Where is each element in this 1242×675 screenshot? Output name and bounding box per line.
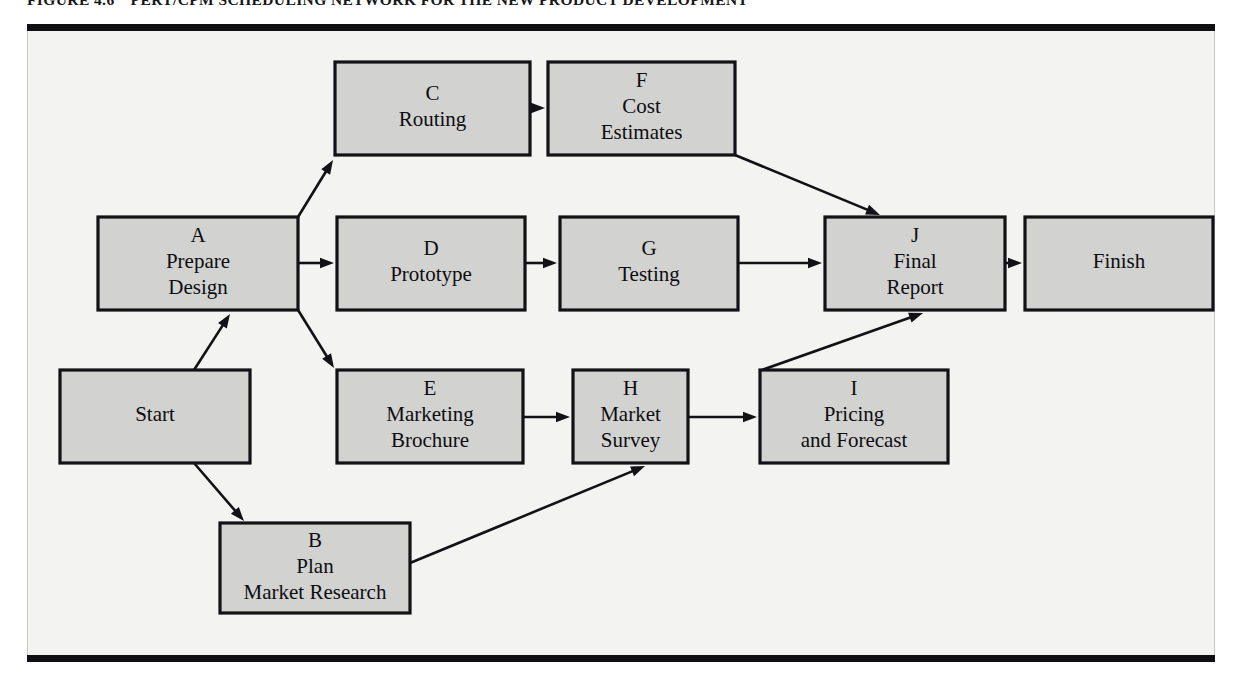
node-label-e-line-1: Marketing <box>386 402 474 426</box>
node-label-j-line-1: Final <box>893 249 936 273</box>
edge-j-to-finish <box>1005 258 1022 268</box>
node-label-e-line-2: Brochure <box>391 428 469 452</box>
node-label-start-line-0: Start <box>135 402 175 426</box>
edge-start-to-a <box>194 314 230 370</box>
node-label-g-line-0: G <box>641 236 656 260</box>
node-box-b[interactable]: BPlanMarket Research <box>220 523 410 613</box>
node-label-j-line-0: J <box>911 223 919 247</box>
node-label-f-line-2: Estimates <box>601 120 683 144</box>
node-box-g[interactable]: GTesting <box>560 217 738 310</box>
node-label-b-line-2: Market Research <box>244 580 387 604</box>
edge-start-to-b <box>194 463 244 521</box>
node-box-e[interactable]: EMarketingBrochure <box>337 370 523 463</box>
node-label-c-line-1: Routing <box>399 107 467 131</box>
edge-g-to-j <box>738 258 822 268</box>
node-box-f[interactable]: FCostEstimates <box>548 62 735 155</box>
node-label-f-line-0: F <box>636 68 648 92</box>
edge-c-to-f <box>530 103 545 113</box>
node-label-h-line-2: Survey <box>601 428 661 452</box>
edge-f-to-j <box>735 155 880 215</box>
edge-a-to-d <box>298 258 334 268</box>
node-label-finish-line-0: Finish <box>1093 249 1146 273</box>
node-label-d-line-0: D <box>423 236 438 260</box>
edges-layer <box>194 103 1022 563</box>
node-box-c[interactable]: CRouting <box>335 62 530 155</box>
node-label-b-line-0: B <box>308 528 322 552</box>
node-label-h-line-1: Market <box>600 402 661 426</box>
node-box-finish[interactable]: Finish <box>1025 217 1213 310</box>
node-box-start[interactable]: Start <box>60 370 250 463</box>
node-box-j[interactable]: JFinalReport <box>825 217 1005 310</box>
edge-e-to-h <box>523 412 570 422</box>
node-label-a-line-0: A <box>190 223 206 247</box>
node-box-i[interactable]: IPricingand Forecast <box>760 370 948 463</box>
node-label-d-line-1: Prototype <box>390 262 472 286</box>
node-label-c-line-0: C <box>425 81 439 105</box>
node-label-j-line-2: Report <box>886 275 943 299</box>
node-label-h-line-0: H <box>623 376 638 400</box>
edge-a-to-c <box>298 160 333 217</box>
node-label-i-line-2: and Forecast <box>801 428 908 452</box>
edge-d-to-g <box>525 258 557 268</box>
node-label-e-line-0: E <box>424 376 437 400</box>
edge-i-to-j <box>762 313 923 370</box>
node-label-g-line-1: Testing <box>618 262 680 286</box>
node-label-i-line-0: I <box>851 376 858 400</box>
pert-cpm-network-diagram: StartAPrepareDesignBPlanMarket ResearchC… <box>0 0 1242 675</box>
node-box-h[interactable]: HMarketSurvey <box>573 370 688 463</box>
node-label-b-line-1: Plan <box>296 554 334 578</box>
edge-h-to-i <box>688 412 757 422</box>
node-label-f-line-1: Cost <box>622 94 661 118</box>
node-label-a-line-1: Prepare <box>166 249 230 273</box>
node-box-a[interactable]: APrepareDesign <box>98 217 298 310</box>
edge-a-to-e <box>298 310 334 368</box>
node-label-i-line-1: Pricing <box>824 402 885 426</box>
node-box-d[interactable]: DPrototype <box>337 217 525 310</box>
nodes-layer: StartAPrepareDesignBPlanMarket ResearchC… <box>60 62 1213 613</box>
node-label-a-line-2: Design <box>168 275 228 299</box>
edge-b-to-h <box>410 466 645 563</box>
figure-container: FIGURE 4.6PERT/CPM SCHEDULING NETWORK FO… <box>0 0 1242 675</box>
